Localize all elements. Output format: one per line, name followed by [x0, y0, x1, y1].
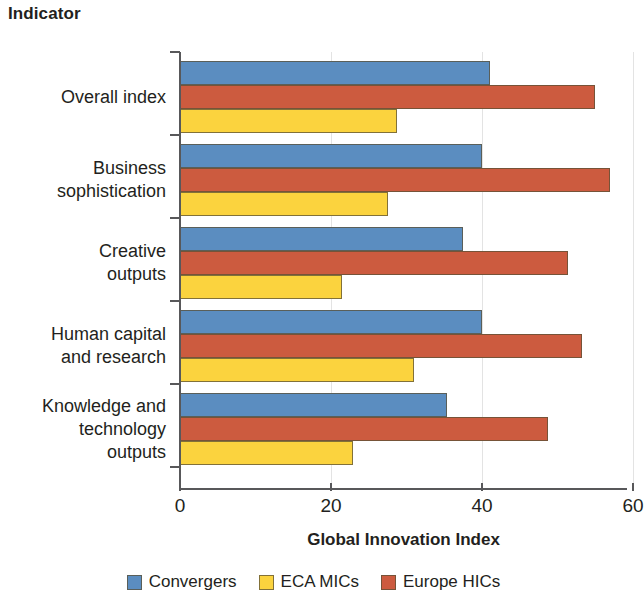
bar: [180, 441, 353, 465]
category-label: Creative outputs: [0, 240, 166, 286]
legend-label: Convergers: [149, 572, 237, 592]
bar: [180, 144, 482, 168]
legend-swatch-icon: [381, 575, 396, 590]
bar: [180, 393, 447, 417]
legend-item[interactable]: Europe HICs: [381, 572, 500, 592]
bar: [180, 61, 490, 85]
x-axis-tick: [481, 483, 483, 491]
x-axis-tick: [179, 483, 181, 491]
y-axis-line: [179, 52, 181, 489]
y-axis-tick: [170, 300, 180, 302]
x-axis-tick-label: 40: [471, 495, 492, 517]
bar: [180, 334, 582, 358]
x-axis-title: Global Innovation Index: [180, 530, 627, 550]
x-axis-tick: [330, 483, 332, 491]
chart-legend: ConvergersECA MICsEurope HICs: [0, 572, 627, 592]
x-axis-line: [179, 488, 627, 490]
x-axis-tick-label: 60: [622, 495, 643, 517]
gridline: [633, 52, 634, 488]
plot-area: [180, 52, 627, 488]
bar: [180, 275, 342, 299]
legend-label: ECA MICs: [281, 572, 359, 592]
bar: [180, 251, 568, 275]
y-axis-tick: [170, 217, 180, 219]
bar: [180, 417, 548, 441]
bar: [180, 310, 482, 334]
category-label: Human capital and research: [0, 323, 166, 369]
bar: [180, 358, 414, 382]
legend-swatch-icon: [259, 575, 274, 590]
x-axis-tick-label: 0: [175, 495, 186, 517]
y-axis-tick: [170, 134, 180, 136]
legend-item[interactable]: ECA MICs: [259, 572, 359, 592]
bar: [180, 227, 463, 251]
legend-item[interactable]: Convergers: [127, 572, 237, 592]
y-axis-tick: [170, 51, 180, 53]
x-axis-tick: [632, 483, 634, 491]
bar: [180, 85, 595, 109]
category-label: Knowledge and technology outputs: [0, 395, 166, 464]
bar: [180, 168, 610, 192]
y-axis-tick: [170, 466, 180, 468]
bar: [180, 109, 397, 133]
y-axis-tick: [170, 383, 180, 385]
category-label: Overall index: [0, 86, 166, 109]
legend-swatch-icon: [127, 575, 142, 590]
category-label: Business sophistication: [0, 157, 166, 203]
bar: [180, 192, 388, 216]
x-axis-tick-label: 20: [320, 495, 341, 517]
legend-label: Europe HICs: [403, 572, 500, 592]
page-title: Indicator: [8, 4, 81, 24]
